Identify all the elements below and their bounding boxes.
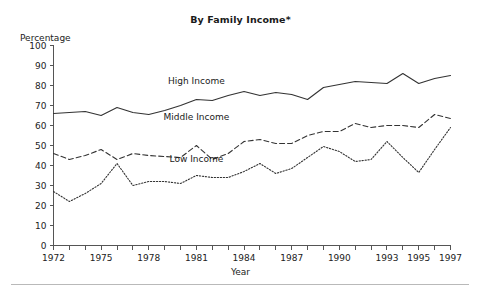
x-tick-label: 1987: [280, 253, 303, 263]
y-tick-label: 20: [35, 201, 47, 211]
y-tick-label: 0: [41, 241, 47, 251]
y-tick-label: 40: [35, 161, 47, 171]
y-tick-label: 50: [35, 141, 47, 151]
y-tick-label: 70: [35, 101, 47, 111]
series-line-high-income: [54, 74, 451, 116]
series-inline-labels: High IncomeMiddle IncomeLow Income: [164, 76, 230, 164]
y-axis-ticks: 0102030405060708090100: [29, 41, 53, 251]
x-tick-label: 1995: [407, 253, 430, 263]
y-tick-label: 30: [35, 181, 47, 191]
y-tick-label: 90: [35, 61, 47, 71]
series-label-middle-income: Middle Income: [164, 112, 230, 122]
line-chart-plot: 0102030405060708090100 19721975197819811…: [0, 0, 481, 293]
series-line-low-income: [54, 128, 451, 202]
chart-series: [54, 74, 451, 202]
x-tick-label: 1978: [137, 253, 160, 263]
x-tick-label: 1990: [328, 253, 351, 263]
x-tick-label: 1981: [185, 253, 208, 263]
y-tick-label: 100: [29, 41, 46, 51]
x-axis-label: Year: [0, 267, 481, 277]
y-tick-label: 10: [35, 221, 47, 231]
x-tick-label: 1997: [439, 253, 462, 263]
series-line-middle-income: [54, 115, 451, 160]
series-label-high-income: High Income: [168, 76, 225, 86]
x-tick-label: 1972: [42, 253, 65, 263]
y-tick-label: 60: [35, 121, 47, 131]
y-tick-label: 80: [35, 81, 47, 91]
chart-page: By Family Income* Percentage 01020304050…: [0, 0, 481, 293]
x-tick-label: 1975: [90, 253, 113, 263]
x-axis-ticks: 1972197519781981198419871990199319951997: [42, 246, 462, 263]
series-label-low-income: Low Income: [170, 154, 224, 164]
x-tick-label: 1984: [233, 253, 256, 263]
footer-divider: [11, 284, 469, 285]
x-tick-label: 1993: [376, 253, 399, 263]
